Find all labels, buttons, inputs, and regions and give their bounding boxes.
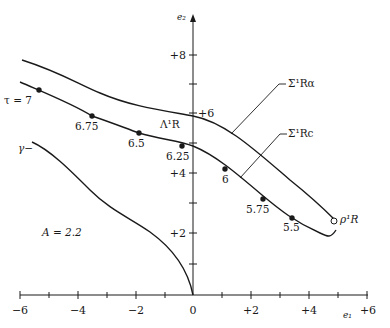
tau-point <box>136 130 141 135</box>
y-tick-label: +8 <box>170 49 186 62</box>
tau-label: 5.75 <box>246 203 269 215</box>
rho-point <box>331 218 337 224</box>
x-axis-label: e₁ <box>343 310 352 320</box>
tau-point <box>89 113 94 118</box>
tau-label: τ = 7 <box>4 94 32 106</box>
tau-point <box>289 215 294 220</box>
sigma-rc-label: Σ¹Rc <box>288 127 314 139</box>
tau-label: 6.75 <box>75 120 98 132</box>
tau-label: 5.5 <box>283 221 300 233</box>
phase-diagram: −6 −4 −2 0 +2 +4 +6 e₁ +2 +4 +6 +8 e₂ ρ¹… <box>0 0 390 328</box>
x-tick-label: +4 <box>301 304 317 317</box>
tau-point <box>179 143 184 148</box>
y-axis-arrow-icon <box>190 14 196 22</box>
y-axis <box>189 14 197 295</box>
gamma-curve <box>32 142 193 295</box>
tau-label: 6 <box>222 173 229 185</box>
x-tick-label: +6 <box>360 304 376 317</box>
x-tick-label: +2 <box>243 304 259 317</box>
y-axis-label: e₂ <box>177 12 186 22</box>
x-tick-label: −2 <box>128 304 144 317</box>
sigma-ra-label: Σ¹Rα <box>288 77 315 89</box>
y-tick-label: +2 <box>170 227 186 240</box>
y-tick-label: +4 <box>170 167 186 180</box>
sigma-ra-leader <box>231 84 286 134</box>
tau-label: 6.25 <box>166 150 189 162</box>
lambda-label: Λ¹R <box>159 118 181 130</box>
x-tick-label: 0 <box>190 304 197 317</box>
tau-point <box>36 87 41 92</box>
x-axis <box>20 291 368 299</box>
rho-label: ρ¹R <box>339 213 358 225</box>
x-tick-label: −4 <box>70 304 86 317</box>
x-tick-label: −6 <box>12 304 28 317</box>
tau-point <box>260 196 265 201</box>
tau-point <box>222 166 227 171</box>
tau-label: 6.5 <box>128 137 145 149</box>
parameter-label: A = 2.2 <box>41 226 82 238</box>
gamma-label: γ− <box>18 142 33 154</box>
